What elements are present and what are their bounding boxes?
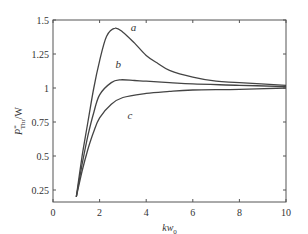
curve-labels: abc bbox=[115, 21, 136, 121]
y-tick-label: 1 bbox=[44, 83, 49, 94]
x-tick-label: 10 bbox=[281, 207, 291, 218]
y-tick-label: 1.25 bbox=[32, 49, 50, 60]
curve-label-a: a bbox=[131, 21, 137, 33]
y-axis-ticks: 0.250.50.7511.251.5 bbox=[32, 15, 287, 196]
data-curves bbox=[76, 28, 286, 197]
curve-label-b: b bbox=[115, 58, 121, 70]
x-tick-label: 0 bbox=[51, 207, 56, 218]
plot-area-frame bbox=[53, 20, 286, 202]
y-tick-label: 1.5 bbox=[37, 15, 50, 26]
y-tick-label: 0.25 bbox=[32, 185, 50, 196]
y-tick-label: 0.75 bbox=[32, 117, 50, 128]
curve-b bbox=[76, 80, 286, 197]
y-axis-label: P*Thr/W bbox=[12, 106, 27, 135]
line-chart: 0246810 0.250.50.7511.251.5 abc kw0 P*Th… bbox=[0, 0, 308, 234]
curve-c bbox=[76, 88, 286, 197]
curve-label-c: c bbox=[127, 109, 132, 121]
curve-a bbox=[76, 28, 286, 197]
x-tick-label: 8 bbox=[237, 207, 242, 218]
x-axis-ticks: 0246810 bbox=[51, 20, 292, 218]
x-tick-label: 4 bbox=[144, 207, 149, 218]
x-axis-label: kw0 bbox=[162, 222, 177, 234]
x-tick-label: 6 bbox=[190, 207, 195, 218]
y-tick-label: 0.5 bbox=[37, 151, 50, 162]
x-tick-label: 2 bbox=[97, 207, 102, 218]
